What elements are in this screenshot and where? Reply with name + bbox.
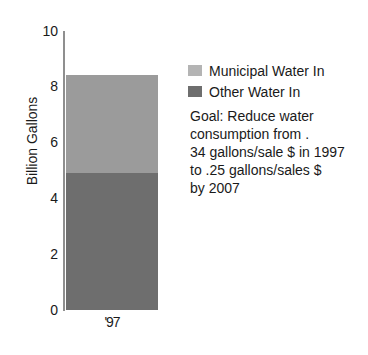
y-tick-2: 2 bbox=[30, 247, 58, 261]
goal-line-3: 34 gallons/sale $ in 1997 bbox=[190, 143, 368, 161]
goal-line-5: by 2007 bbox=[190, 179, 368, 197]
y-tick-10: 10 bbox=[30, 24, 58, 38]
chart-legend: Municipal Water In Other Water In bbox=[188, 60, 366, 102]
legend-label-other: Other Water In bbox=[209, 84, 300, 100]
goal-line-1: Goal: Reduce water bbox=[190, 107, 368, 125]
y-tick-0: 0 bbox=[30, 303, 58, 317]
bar-segment-municipal-water-in[interactable] bbox=[66, 75, 158, 173]
bar-segment-other-water-in[interactable] bbox=[66, 173, 158, 310]
y-axis-tick-labels: 10 8 6 4 2 0 bbox=[30, 0, 58, 355]
y-tick-4: 4 bbox=[30, 191, 58, 205]
legend-item-municipal-water-in[interactable]: Municipal Water In bbox=[188, 60, 366, 81]
legend-swatch-icon-municipal bbox=[188, 65, 202, 76]
y-tick-6: 6 bbox=[30, 135, 58, 149]
goal-annotation: Goal: Reduce water consumption from . 34… bbox=[190, 107, 368, 197]
x-axis-tick-label-97: '97 bbox=[66, 314, 158, 330]
goal-line-2: consumption from . bbox=[190, 125, 368, 143]
legend-label-municipal: Municipal Water In bbox=[209, 63, 324, 79]
legend-item-other-water-in[interactable]: Other Water In bbox=[188, 81, 366, 102]
legend-swatch-icon-other bbox=[188, 86, 202, 97]
y-axis-line bbox=[63, 31, 65, 311]
y-tick-8: 8 bbox=[30, 79, 58, 93]
goal-line-4: to .25 gallons/sales $ bbox=[190, 161, 368, 179]
